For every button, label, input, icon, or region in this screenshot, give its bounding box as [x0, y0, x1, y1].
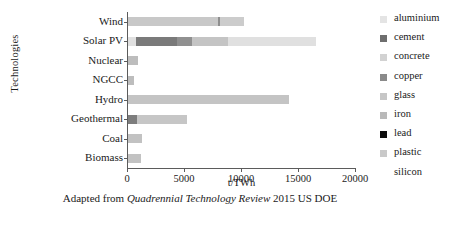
x-axis-tick [241, 168, 242, 172]
legend-swatch [380, 35, 387, 42]
bar-segment [137, 115, 188, 124]
legend-label: plastic [394, 146, 421, 158]
legend-item[interactable]: iron [380, 108, 454, 127]
bar-segment [192, 37, 228, 46]
bar[interactable] [128, 134, 142, 143]
y-axis-tick [124, 139, 127, 140]
figure-caption: Adapted from Quadrennial Technology Revi… [0, 192, 400, 204]
legend-label: copper [394, 70, 423, 82]
y-axis-tick [124, 119, 127, 120]
y-axis-tick-label: NGCC [31, 74, 123, 85]
caption-source-title: Quadrennial Technology Review [127, 192, 270, 204]
legend-swatch [380, 131, 387, 138]
bar-segment [136, 37, 177, 46]
y-axis-tick-label: Biomass [31, 152, 123, 163]
y-axis-tick [124, 61, 127, 62]
legend-label: cement [394, 31, 424, 43]
legend-label: aluminium [394, 12, 440, 24]
y-axis-tick [124, 158, 127, 159]
legend-item[interactable]: lead [380, 127, 454, 146]
bar[interactable] [128, 56, 138, 65]
y-axis-line [127, 12, 128, 168]
legend-item[interactable]: cement [380, 31, 454, 50]
bar[interactable] [128, 115, 187, 124]
y-axis-title: Technologies [9, 4, 20, 124]
legend-swatch [380, 112, 387, 119]
legend-item[interactable]: plastic [380, 146, 454, 165]
caption-prefix: Adapted from [63, 192, 127, 204]
bar-segment [128, 134, 142, 143]
caption-suffix: 2015 US DOE [270, 192, 337, 204]
bar[interactable] [128, 17, 244, 26]
legend-item[interactable]: concrete [380, 50, 454, 69]
bar-segment [228, 37, 316, 46]
bar[interactable] [128, 37, 316, 46]
legend-item[interactable]: aluminium [380, 12, 454, 31]
legend-label: iron [394, 108, 411, 120]
y-axis-tick-label: Geothermal [31, 113, 123, 124]
plot-area: 05000100001500020000 [127, 12, 355, 168]
legend: aluminiumcementconcretecopperglassironle… [380, 12, 454, 185]
legend-label: lead [394, 127, 412, 139]
bar-segment [128, 95, 289, 104]
bar-segment [128, 56, 138, 65]
legend-label: silicon [394, 166, 422, 178]
legend-swatch [380, 16, 387, 23]
y-axis-tick-label: Solar PV [31, 35, 123, 46]
y-axis-tick-label: Coal [31, 133, 123, 144]
y-axis-tick-label: Hydro [31, 94, 123, 105]
y-axis-tick-label: Wind [31, 16, 123, 27]
bar-segment [128, 154, 141, 163]
x-axis-tick [184, 168, 185, 172]
x-axis-tick [298, 168, 299, 172]
legend-label: glass [394, 89, 415, 101]
legend-item[interactable]: silicon [380, 166, 454, 185]
legend-item[interactable]: glass [380, 89, 454, 108]
y-axis-tick [124, 100, 127, 101]
x-axis-tick [127, 168, 128, 172]
bar[interactable] [128, 154, 141, 163]
y-axis-tick [124, 22, 127, 23]
y-axis-tick-label: Nuclear [31, 55, 123, 66]
legend-swatch [380, 74, 387, 81]
y-axis-tick [124, 80, 127, 81]
chart-figure: Technologies WindSolar PVNuclearNGCCHydr… [0, 0, 454, 226]
legend-swatch [380, 54, 387, 61]
bar-segment [220, 17, 244, 26]
bar-segment [128, 37, 136, 46]
legend-swatch [380, 150, 387, 157]
y-axis-tick [124, 41, 127, 42]
x-axis-tick [355, 168, 356, 172]
bar[interactable] [128, 76, 134, 85]
bar[interactable] [128, 95, 289, 104]
bar-segment [128, 17, 218, 26]
legend-item[interactable]: copper [380, 70, 454, 89]
legend-label: concrete [394, 50, 430, 62]
bar-segment [177, 37, 192, 46]
x-axis-label: t/TWh [127, 177, 356, 188]
bar-segment [128, 76, 134, 85]
legend-swatch [380, 93, 387, 100]
bar-segment [128, 115, 137, 124]
